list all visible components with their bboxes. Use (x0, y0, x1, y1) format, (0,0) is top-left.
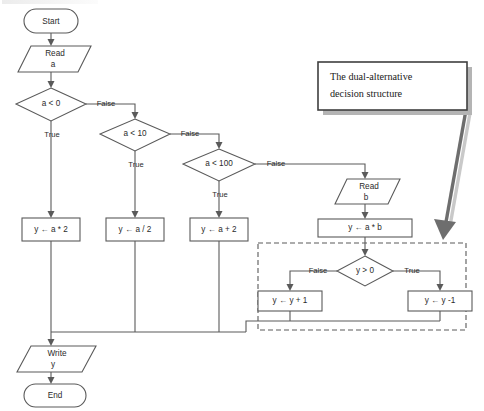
arrowhead-dec-a100 (216, 142, 223, 149)
label-a-lt-0-true: True (44, 130, 59, 139)
proc-a-plus-2-label: y ← a + 2 (201, 225, 237, 234)
callout-pointer-line (446, 110, 466, 222)
node-proc-a-times-2[interactable]: y ← a * 2 (22, 218, 80, 241)
arrowhead-proc3 (216, 211, 223, 218)
proc-a-times-b-label: y ← a * b (348, 223, 382, 232)
label-a-lt-0-false: False (97, 99, 116, 108)
decision-y-gt-0-label: y > 0 (356, 266, 374, 275)
callout-note[interactable]: The dual-alternative decision structure (318, 62, 467, 110)
arrowhead-y-plus-1 (287, 284, 294, 291)
proc-a-times-2-label: y ← a * 2 (34, 225, 68, 234)
node-read-a[interactable]: Read a (18, 46, 91, 72)
label-y-gt-0-true: True (404, 266, 419, 275)
node-decision-a-lt-0[interactable]: a < 0 (16, 88, 86, 121)
callout-text-line1: The dual-alternative (330, 71, 413, 82)
label-a-lt-10-true: True (128, 160, 143, 169)
arrowhead-write-y (48, 339, 55, 346)
read-b-label-line1: Read (359, 182, 379, 191)
arrowhead-proc1 (48, 211, 55, 218)
node-proc-a-plus-2[interactable]: y ← a + 2 (190, 218, 248, 241)
label-a-lt-10-false: False (181, 129, 200, 138)
node-end[interactable]: End (24, 384, 86, 407)
proc-a-div-2-label: y ← a / 2 (119, 225, 152, 234)
arrowhead-y-minus-1 (437, 284, 444, 291)
node-write-y[interactable]: Write y (17, 346, 96, 372)
label-a-lt-100-true: True (212, 190, 227, 199)
start-label: Start (42, 17, 60, 26)
decision-a-lt-100-label: a < 100 (205, 159, 233, 168)
read-a-label-line2: a (51, 60, 56, 69)
callout-box-shape (318, 62, 467, 110)
callout-text-line2: decision structure (330, 88, 403, 99)
decision-a-lt-0-label: a < 0 (42, 99, 61, 108)
flowchart-canvas: Start Read a a < 0 False True a < 10 Fal… (0, 0, 484, 411)
arrowhead-proc2 (132, 211, 139, 218)
node-decision-y-gt-0[interactable]: y > 0 (337, 256, 393, 286)
arrowhead-read-a (48, 39, 55, 46)
edge-inner-merge (290, 311, 440, 321)
label-a-lt-100-false: False (267, 159, 286, 168)
node-decision-a-lt-10[interactable]: a < 10 (100, 119, 170, 151)
arrowhead-dec-y0 (362, 249, 369, 256)
callout-pointer-shadow (450, 113, 470, 226)
proc-y-plus-1-label: y ← y + 1 (273, 296, 308, 305)
callout-pointer-arrowhead (434, 219, 456, 240)
arrowhead-end (48, 377, 55, 384)
end-label: End (48, 391, 63, 400)
proc-y-minus-1-label: y ← y -1 (425, 296, 456, 305)
label-y-gt-0-false: False (309, 266, 328, 275)
arrowhead-dec-a10 (132, 112, 139, 119)
node-proc-y-minus-1[interactable]: y ← y -1 (408, 291, 472, 311)
decision-a-lt-10-label: a < 10 (124, 129, 147, 138)
node-decision-a-lt-100[interactable]: a < 100 (183, 149, 255, 181)
arrowhead-read-b (362, 172, 369, 179)
arrowhead-proc-ab (362, 212, 369, 219)
write-y-label-line1: Write (48, 349, 67, 358)
node-proc-a-times-b[interactable]: y ← a * b (318, 219, 412, 237)
read-a-label-line1: Read (45, 49, 65, 58)
node-read-b[interactable]: Read b (335, 179, 400, 204)
node-proc-y-plus-1[interactable]: y ← y + 1 (258, 291, 322, 311)
node-start[interactable]: Start (24, 9, 78, 33)
node-proc-a-div-2[interactable]: y ← a / 2 (106, 218, 164, 241)
read-b-label-line2: b (364, 193, 369, 202)
arrowhead-dec-a0 (48, 81, 55, 88)
